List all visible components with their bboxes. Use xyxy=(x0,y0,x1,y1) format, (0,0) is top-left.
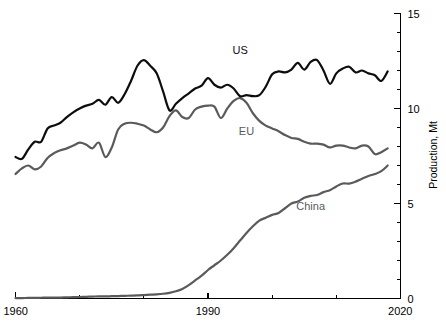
chart-container: 196019902020 051015 USEUChina Production… xyxy=(0,0,446,324)
x-tick-label: 1960 xyxy=(4,305,28,317)
x-tick-label: 2020 xyxy=(388,305,412,317)
series-line-eu xyxy=(16,98,388,174)
series-label-eu: EU xyxy=(239,125,254,137)
series-line-china xyxy=(16,166,388,299)
line-chart-plot: 196019902020 051015 USEUChina Production… xyxy=(0,0,446,324)
series-inline-labels: USEUChina xyxy=(232,44,325,212)
x-axis-tick-labels: 196019902020 xyxy=(4,305,413,317)
y-tick-label: 15 xyxy=(408,8,420,20)
y-tick-label: 0 xyxy=(408,293,414,305)
x-tick-label: 1990 xyxy=(196,305,220,317)
y-axis-ticks xyxy=(394,14,401,299)
series-line-us xyxy=(16,60,388,160)
axis-frame xyxy=(16,14,401,299)
y-tick-label: 10 xyxy=(408,103,420,115)
y-tick-label: 5 xyxy=(408,198,414,210)
data-series-group xyxy=(16,60,388,299)
y-axis-title: Production, Mt xyxy=(427,121,439,189)
series-label-china: China xyxy=(296,200,326,212)
series-label-us: US xyxy=(232,44,247,56)
y-axis-tick-labels: 051015 xyxy=(408,8,420,305)
